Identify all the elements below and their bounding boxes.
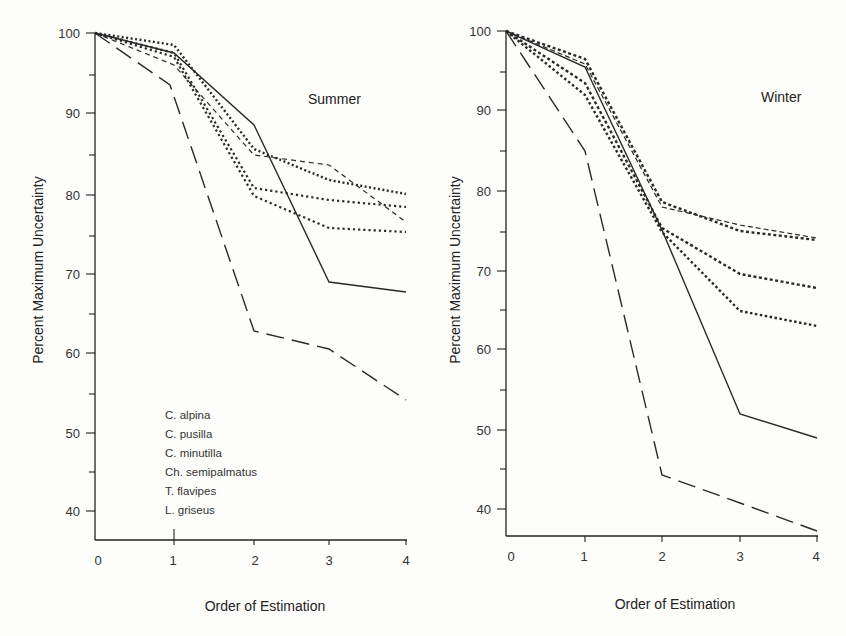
summer-series-l-griseus <box>95 33 406 400</box>
legend-item-c-alpina: C. alpina <box>165 409 211 421</box>
winter-ytick-40: 40 <box>477 502 491 517</box>
summer-ytick-80: 80 <box>66 188 80 203</box>
winter-x-axis-title: Order of Estimation <box>615 596 736 612</box>
summer-ytick-70: 70 <box>66 267 80 282</box>
summer-x-ticks <box>174 529 406 545</box>
winter-chart: 100 90 80 70 60 50 40 0 1 2 3 4 Order of… <box>447 24 820 612</box>
legend-item-c-pusilla: C. pusilla <box>165 428 213 440</box>
summer-ytick-60: 60 <box>66 346 80 361</box>
summer-y-ticks <box>86 33 95 511</box>
summer-y-axis-title: Percent Maximum Uncertainty <box>30 176 46 364</box>
winter-ytick-100: 100 <box>469 24 491 39</box>
summer-series-c-alpina <box>95 33 406 292</box>
summer-xtick-2: 2 <box>251 553 258 568</box>
legend-item-l-griseus: L. griseus <box>165 504 215 516</box>
summer-x-axis-title: Order of Estimation <box>205 598 326 614</box>
summer-ytick-100: 100 <box>58 26 80 41</box>
summer-xtick-1: 1 <box>169 553 176 568</box>
summer-xtick-0: 0 <box>94 553 101 568</box>
summer-chart: 100 90 80 70 60 50 40 0 1 2 3 4 Order of… <box>30 26 410 614</box>
summer-legend: C. alpina C. pusilla C. minutilla Ch. se… <box>165 409 257 516</box>
winter-ytick-70: 70 <box>477 264 491 279</box>
winter-xtick-3: 3 <box>736 549 743 564</box>
summer-xtick-3: 3 <box>325 553 332 568</box>
winter-xtick-0: 0 <box>507 549 514 564</box>
summer-ytick-40: 40 <box>66 504 80 519</box>
winter-series-l-griseus <box>506 31 817 531</box>
summer-series-ch-semipalmatus <box>95 33 406 207</box>
legend-item-t-flavipes: T. flavipes <box>165 485 216 497</box>
summer-panel-title: Summer <box>308 91 361 107</box>
winter-xtick-4: 4 <box>812 549 819 564</box>
legend-item-ch-semipalmatus: Ch. semipalmatus <box>165 466 257 478</box>
winter-ytick-80: 80 <box>477 184 491 199</box>
summer-ytick-90: 90 <box>66 106 80 121</box>
winter-y-axis-title: Percent Maximum Uncertainty <box>447 176 463 364</box>
winter-y-ticks <box>497 31 506 509</box>
summer-series-c-pusilla <box>95 33 406 222</box>
figure: 100 90 80 70 60 50 40 0 1 2 3 4 Order of… <box>0 0 846 636</box>
legend-item-c-minutilla: C. minutilla <box>165 447 222 459</box>
winter-xtick-2: 2 <box>658 549 665 564</box>
summer-ytick-50: 50 <box>66 426 80 441</box>
winter-panel-title: Winter <box>761 89 802 105</box>
winter-ytick-90: 90 <box>477 103 491 118</box>
summer-xtick-4: 4 <box>402 553 409 568</box>
winter-xtick-1: 1 <box>580 549 587 564</box>
summer-series-c-minutilla <box>95 33 406 194</box>
winter-ytick-60: 60 <box>477 342 491 357</box>
winter-ytick-50: 50 <box>477 423 491 438</box>
winter-x-ticks <box>585 536 817 542</box>
winter-series-t-flavipes <box>506 31 817 326</box>
